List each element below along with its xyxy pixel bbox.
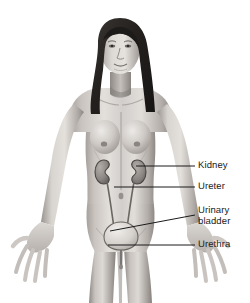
hand-right [187, 222, 228, 281]
arm-left [41, 104, 84, 226]
urethra-outlet [119, 265, 123, 270]
label-urinary-bladder: Urinary bladder [198, 206, 230, 227]
nipple-left [101, 141, 107, 146]
label-kidney: Kidney [198, 161, 228, 172]
arm-right [157, 104, 200, 226]
navel [119, 193, 124, 199]
breast-right [121, 120, 151, 154]
breast-left [90, 120, 120, 154]
label-urethra: Urethra [198, 240, 230, 251]
pupil-right [127, 45, 129, 47]
figure-body [13, 18, 228, 303]
leg-left [89, 248, 116, 303]
pupil-left [111, 45, 113, 47]
hand-left [13, 222, 54, 281]
urinary-system-figure: Kidney Ureter Urinary bladder Urethra [0, 0, 250, 303]
anatomy-illustration [0, 0, 250, 303]
label-ureter: Ureter [198, 182, 225, 193]
leg-right [124, 248, 152, 303]
nipple-right [134, 141, 140, 146]
